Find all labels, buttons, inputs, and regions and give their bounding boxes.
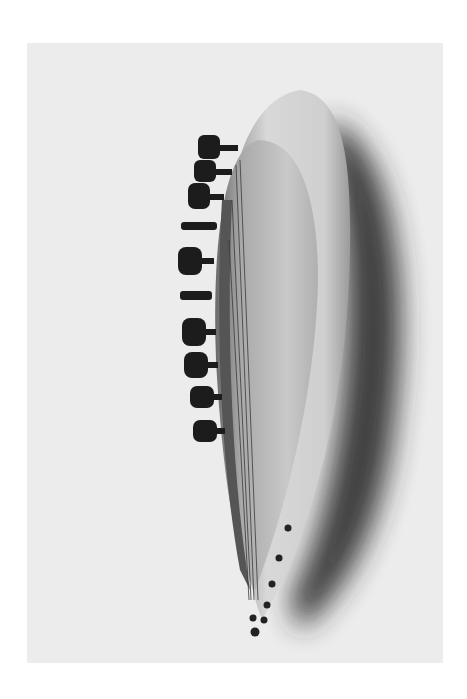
peg-icon <box>190 386 222 408</box>
peg-icon <box>198 135 238 159</box>
peg-icon <box>194 160 232 182</box>
peg-icon <box>188 183 224 209</box>
peg-icon <box>180 291 212 300</box>
peg-icon <box>182 318 216 346</box>
peg-icon <box>181 222 217 230</box>
photo-frame <box>27 43 443 663</box>
instrument-photo <box>27 43 443 663</box>
peg-icon <box>178 247 214 275</box>
peg-icon <box>184 352 218 378</box>
peg-icon <box>193 420 225 442</box>
